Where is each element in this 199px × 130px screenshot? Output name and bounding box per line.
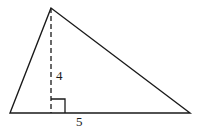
triangle-diagram: 4 5 [0,0,199,130]
height-label: 4 [56,68,63,83]
triangle [10,8,190,113]
right-angle-marker [51,99,65,113]
base-label: 5 [76,114,83,129]
